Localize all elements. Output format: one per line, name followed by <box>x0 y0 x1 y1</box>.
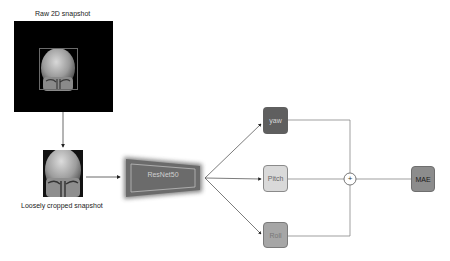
yaw-node: yaw <box>263 107 288 134</box>
arrow-resnet-to-pitch <box>205 178 261 179</box>
line-roll-to-sum <box>288 185 350 236</box>
diagram-connectors <box>0 0 450 261</box>
resnet-label: ResNet50 <box>126 171 200 178</box>
arrow-resnet-to-roll <box>205 178 261 234</box>
sum-symbol: + <box>344 173 356 185</box>
roll-node: Roll <box>263 222 288 248</box>
mae-loss-node: MAE <box>411 166 435 192</box>
pitch-node: Pitch <box>263 165 288 192</box>
line-yaw-to-sum <box>288 120 350 173</box>
arrow-resnet-to-yaw <box>205 124 261 178</box>
